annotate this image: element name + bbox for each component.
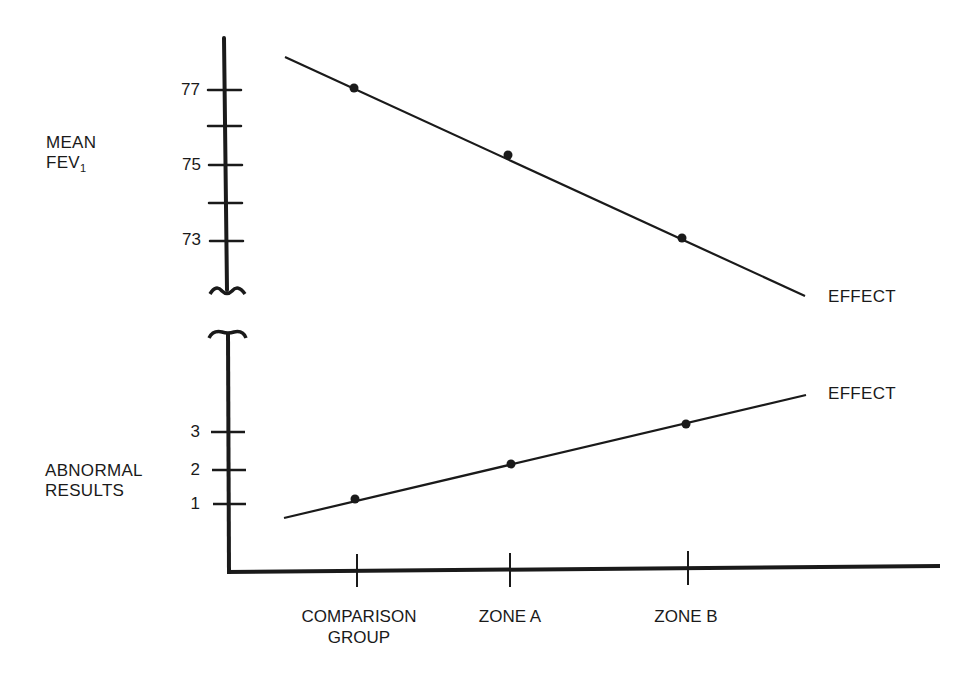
- x-label-comparison-group: COMPARISON GROUP: [277, 606, 441, 648]
- top-ylabel-subscript: 1: [80, 162, 86, 174]
- bottom-ylabel: ABNORMAL RESULTS: [45, 461, 143, 501]
- x-label-line2: GROUP: [277, 627, 441, 648]
- bottom-effect-label: EFFECT: [828, 384, 896, 404]
- data-point: [350, 84, 359, 93]
- x-label-zone-b: ZONE B: [626, 606, 746, 627]
- data-point: [682, 420, 691, 429]
- top-effect-label: EFFECT: [828, 287, 896, 307]
- chart-canvas: [0, 0, 979, 683]
- bottom-tick-2: 2: [170, 460, 200, 480]
- bottom-ylabel-line1: ABNORMAL: [45, 461, 143, 481]
- bottom-tick-1: 1: [170, 494, 200, 514]
- top-tick-73: 73: [171, 230, 201, 250]
- data-point: [507, 460, 516, 469]
- top-effect-series: [285, 57, 805, 296]
- bottom-tick-3: 3: [170, 422, 200, 442]
- top-ylabel: MEAN FEV1: [46, 133, 96, 178]
- top-ylabel-line1: MEAN: [46, 133, 96, 153]
- data-point: [678, 234, 687, 243]
- top-ylabel-text: FEV: [46, 153, 80, 172]
- bottom-axes: [211, 333, 940, 587]
- x-label-line1: ZONE B: [626, 606, 746, 627]
- top-tick-77: 77: [170, 80, 200, 100]
- x-label-line1: ZONE A: [450, 606, 570, 627]
- bottom-ylabel-line2: RESULTS: [45, 481, 143, 501]
- data-point: [504, 151, 513, 160]
- x-label-zone-a: ZONE A: [450, 606, 570, 627]
- top-y-axis: [208, 38, 243, 290]
- bottom-effect-series: [284, 395, 806, 518]
- data-point: [351, 495, 360, 504]
- top-ylabel-line2: FEV1: [46, 153, 96, 178]
- top-tick-75: 75: [171, 155, 201, 175]
- x-label-line1: COMPARISON: [277, 606, 441, 627]
